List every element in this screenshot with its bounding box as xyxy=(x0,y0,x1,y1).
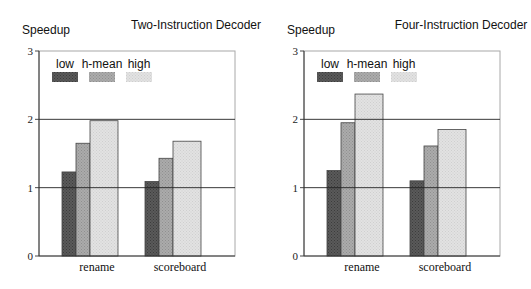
chart-title: Four-Instruction Decoder xyxy=(395,18,528,32)
y-axis-label: Speedup xyxy=(22,23,70,37)
bar-rename-high xyxy=(355,94,383,256)
legend-label-low: low xyxy=(56,57,74,71)
four-instruction-decoder-chart: 0123SpeedupFour-Instruction Decoderlowh-… xyxy=(265,0,530,289)
bar-rename-high xyxy=(90,121,118,256)
bar-scoreboard-low xyxy=(410,181,424,256)
bar-scoreboard-high xyxy=(438,130,466,256)
y-tick-label: 3 xyxy=(28,45,34,57)
chart-svg: 0123SpeedupFour-Instruction Decoderlowh-… xyxy=(265,0,530,289)
y-tick-label: 0 xyxy=(28,250,34,262)
bar-scoreboard-high xyxy=(173,141,201,256)
legend-swatch-h-mean xyxy=(354,72,380,82)
bar-rename-low xyxy=(62,172,76,256)
category-label-rename: rename xyxy=(79,260,114,274)
legend-label-h-mean: h-mean xyxy=(82,57,123,71)
legend-swatch-high xyxy=(126,72,152,82)
chart-svg: 0123SpeedupTwo-Instruction Decoderlowh-m… xyxy=(0,0,265,289)
bar-scoreboard-h-mean xyxy=(159,158,173,256)
category-label-scoreboard: scoreboard xyxy=(154,260,207,274)
category-label-rename: rename xyxy=(344,260,379,274)
legend-swatch-low xyxy=(317,72,343,82)
legend-label-h-mean: h-mean xyxy=(347,57,388,71)
legend-label-high: high xyxy=(393,57,416,71)
chart-title: Two-Instruction Decoder xyxy=(131,18,261,32)
y-tick-label: 2 xyxy=(293,113,299,125)
legend-label-high: high xyxy=(128,57,151,71)
bar-rename-h-mean xyxy=(76,143,90,256)
y-tick-label: 0 xyxy=(293,250,299,262)
y-tick-label: 1 xyxy=(293,182,299,194)
bar-rename-low xyxy=(327,171,341,256)
y-tick-label: 3 xyxy=(293,45,299,57)
y-axis-label: Speedup xyxy=(287,23,335,37)
legend-swatch-high xyxy=(391,72,417,82)
legend-swatch-low xyxy=(52,72,78,82)
y-tick-label: 2 xyxy=(28,113,34,125)
legend-label-low: low xyxy=(321,57,339,71)
two-instruction-decoder-chart: 0123SpeedupTwo-Instruction Decoderlowh-m… xyxy=(0,0,265,289)
legend-swatch-h-mean xyxy=(89,72,115,82)
bar-scoreboard-h-mean xyxy=(424,146,438,256)
bar-rename-h-mean xyxy=(341,123,355,256)
category-label-scoreboard: scoreboard xyxy=(419,260,472,274)
y-tick-label: 1 xyxy=(28,182,34,194)
bar-scoreboard-low xyxy=(145,182,159,256)
